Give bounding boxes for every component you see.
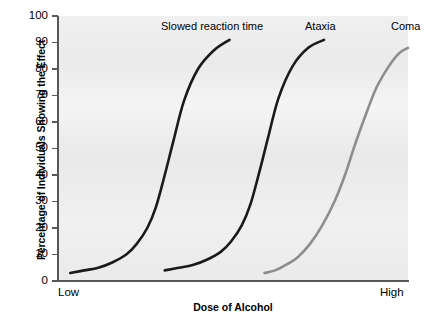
x-axis-title: Dose of Alcohol: [58, 301, 408, 313]
y-axis-tick: [52, 148, 58, 149]
y-axis-tick-label: 100: [18, 10, 48, 22]
y-axis-tick: [52, 174, 58, 175]
curve-label-slowed-reaction-time: Slowed reaction time: [161, 20, 263, 32]
y-axis-tick: [52, 280, 58, 281]
y-axis-tick: [52, 95, 58, 96]
x-axis-low-label: Low: [58, 286, 79, 298]
panel-sheen: [58, 16, 408, 281]
dose-response-chart: 0102030405060708090100 Percentage of Ind…: [0, 0, 440, 326]
y-axis-tick: [52, 15, 58, 16]
curve-label-ataxia: Ataxia: [305, 20, 336, 32]
y-axis-tick: [52, 254, 58, 255]
y-axis-tick: [52, 227, 58, 228]
curve-label-coma: Coma: [391, 20, 420, 32]
y-axis-tick: [52, 68, 58, 69]
plot-area: [58, 16, 408, 281]
y-axis-title: Percentage of Individuals Showing the Ef…: [35, 25, 47, 275]
y-axis-tick-label: 0: [18, 275, 48, 287]
y-axis-tick: [52, 121, 58, 122]
y-axis-tick: [52, 201, 58, 202]
x-axis-high-label: High: [380, 286, 404, 298]
y-axis-tick: [52, 42, 58, 43]
x-axis-line: [57, 280, 409, 282]
